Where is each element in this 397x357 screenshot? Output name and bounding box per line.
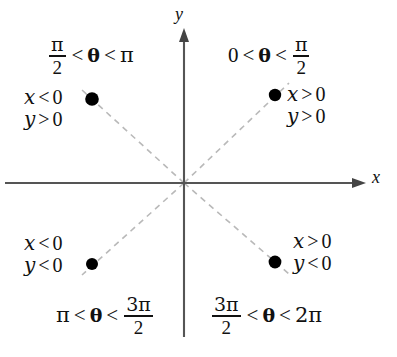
fraction-3pi-over-2: 3π 2 (124, 295, 153, 337)
quadrant-4-angle-label: 3π 2 < θ < 2π (210, 295, 322, 337)
fraction-pi-over-2: π 2 (293, 35, 310, 77)
y-axis-label: y (175, 4, 183, 24)
operator-less-than: < (247, 304, 259, 328)
operator-less-than: < (104, 44, 116, 68)
ray-quadrant-2 (82, 90, 184, 183)
quadrant-4-y-sign: y<0 (293, 252, 332, 274)
pi-symbol: π (56, 304, 70, 328)
x-axis-label: x (372, 167, 380, 187)
operator-less-than: < (275, 44, 287, 68)
pi-symbol: π (120, 44, 134, 68)
fraction-3pi-over-2: 3π 2 (212, 295, 241, 337)
operator-less-than: < (279, 304, 291, 328)
zero-value: 0 (228, 44, 239, 68)
y-axis-arrowhead (179, 28, 189, 42)
theta-symbol: θ (87, 45, 100, 66)
theta-symbol: θ (262, 305, 275, 326)
quadrant-1-y-sign: y>0 (287, 105, 326, 127)
point-quadrant-3 (86, 258, 98, 270)
quadrant-2-angle-label: π 2 < θ < π (47, 35, 134, 77)
operator-less-than: < (74, 304, 86, 328)
polar-quadrant-figure: y x π 2 < θ < π 0 < θ < π 2 x<0 y>0 (0, 0, 397, 357)
two-pi-symbol: 2π (295, 304, 322, 328)
quadrant-4-sign-block: x>0 y<0 (293, 230, 332, 275)
point-quadrant-1 (269, 89, 281, 101)
operator-less-than: < (106, 304, 118, 328)
quadrant-1-x-sign: x>0 (287, 83, 326, 105)
quadrant-4-x-sign: x>0 (293, 230, 332, 252)
quadrant-3-sign-block: x<0 y<0 (24, 232, 63, 277)
fraction-pi-over-2: π 2 (49, 35, 66, 77)
x-axis-arrowhead (352, 178, 366, 188)
quadrant-2-sign-block: x<0 y>0 (24, 86, 63, 131)
diagonal-rays (82, 83, 289, 275)
quadrant-2-y-sign: y>0 (24, 108, 63, 130)
quadrant-3-angle-label: π < θ < 3π 2 (56, 295, 155, 337)
operator-less-than: < (243, 44, 255, 68)
quadrant-3-y-sign: y<0 (24, 254, 63, 276)
quadrant-1-sign-block: x>0 y>0 (287, 83, 326, 128)
quadrant-2-x-sign: x<0 (24, 86, 63, 108)
point-quadrant-2 (85, 92, 99, 106)
theta-symbol: θ (258, 45, 271, 66)
point-quadrant-4 (269, 256, 282, 269)
operator-less-than: < (72, 44, 84, 68)
quadrant-3-x-sign: x<0 (24, 232, 63, 254)
theta-symbol: θ (90, 305, 103, 326)
quadrant-1-angle-label: 0 < θ < π 2 (228, 35, 311, 77)
